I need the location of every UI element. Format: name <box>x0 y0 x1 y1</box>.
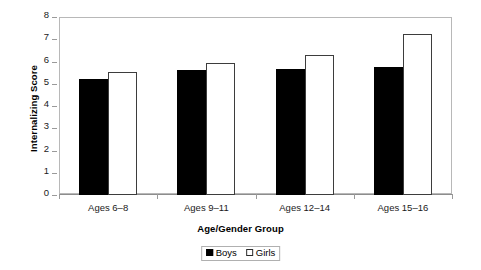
legend-item-girls: Girls <box>246 248 276 258</box>
bar-group <box>59 17 157 195</box>
bar-boys-3 <box>276 69 305 195</box>
bar-girls-3 <box>305 55 334 195</box>
y-axis-tick-label: 8 <box>44 10 49 20</box>
y-axis-tick-label: 7 <box>44 32 49 42</box>
bars-layer <box>59 17 452 195</box>
y-axis-tick-label: 0 <box>44 188 49 198</box>
legend-swatch-boys-icon <box>206 249 213 256</box>
y-axis-tick-label: 5 <box>44 77 49 87</box>
y-axis-tick-label: 6 <box>44 55 49 65</box>
bar-girls-2 <box>206 63 235 195</box>
x-axis-tick-mark <box>59 194 60 199</box>
y-axis-tick-label: 2 <box>44 144 49 154</box>
bar-girls-1 <box>108 72 137 195</box>
y-axis-tick-mark <box>52 17 57 18</box>
y-axis-tick-mark <box>52 195 57 196</box>
bar-group <box>354 17 452 195</box>
x-axis-tick-mark <box>354 194 355 199</box>
y-axis-title: Internalizing Score <box>28 29 39 189</box>
bar-boys-1 <box>79 79 108 195</box>
bar-girls-4 <box>403 34 432 195</box>
y-axis-tick-mark <box>52 128 57 129</box>
x-axis-tick-mark <box>256 194 257 199</box>
y-axis-tick-label: 4 <box>44 99 49 109</box>
y-axis-tick-mark <box>52 173 57 174</box>
legend-item-boys: Boys <box>206 248 237 258</box>
x-axis-category-label: Ages 6–8 <box>59 202 157 213</box>
y-axis-tick-label: 1 <box>44 166 49 176</box>
bar-boys-4 <box>374 67 403 195</box>
chart-legend: BoysGirls <box>201 246 281 261</box>
legend-label: Girls <box>256 248 276 258</box>
bar-boys-2 <box>177 70 206 195</box>
bar-group <box>256 17 354 195</box>
y-axis-tick-label: 3 <box>44 121 49 131</box>
internalizing-score-bar-chart: Internalizing Score 012345678 Ages 6–8Ag… <box>0 0 481 270</box>
x-axis-tick-mark <box>157 194 158 199</box>
y-axis-tick-mark <box>52 106 57 107</box>
y-axis-tick-mark <box>52 151 57 152</box>
x-axis-title: Age/Gender Group <box>0 223 481 234</box>
y-axis-tick-mark <box>52 84 57 85</box>
y-axis-tick-mark <box>52 62 57 63</box>
x-axis-tick-mark <box>452 194 453 199</box>
x-axis-category-label: Ages 12–14 <box>256 202 354 213</box>
x-axis-category-label: Ages 9–11 <box>157 202 255 213</box>
bar-group <box>157 17 255 195</box>
legend-label: Boys <box>216 248 237 258</box>
x-axis-category-label: Ages 15–16 <box>354 202 452 213</box>
y-axis-tick-mark <box>52 39 57 40</box>
legend-swatch-girls-icon <box>246 249 253 256</box>
